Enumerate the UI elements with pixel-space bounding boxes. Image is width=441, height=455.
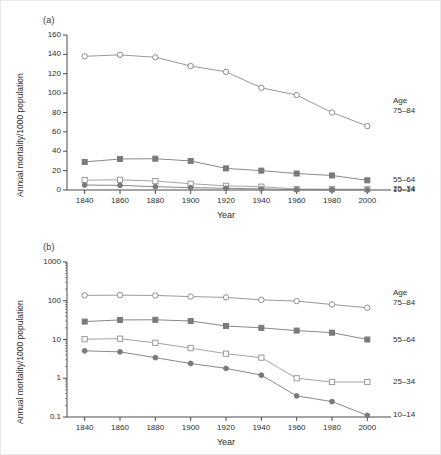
x-tick-label: 1880 <box>135 423 175 432</box>
panel-b-plot <box>1 228 441 455</box>
data-point-55-64 <box>294 171 299 176</box>
x-tick-label: 1940 <box>241 196 281 205</box>
data-point-75-84 <box>188 63 193 68</box>
data-point-25-34 <box>223 351 228 356</box>
y-tick-label: 80 <box>11 108 61 117</box>
y-tick-label: 20 <box>11 166 61 175</box>
data-point-10-14 <box>188 185 193 190</box>
y-tick-label: 100 <box>11 296 61 305</box>
data-point-10-14 <box>259 373 264 378</box>
x-tick-label: 2000 <box>347 196 387 205</box>
x-tick-label: 1880 <box>135 196 175 205</box>
data-point-10-14 <box>365 413 370 418</box>
y-tick-label: 120 <box>11 69 61 78</box>
data-point-10-14 <box>188 361 193 366</box>
legend-title: Age <box>393 96 407 105</box>
data-point-55-64 <box>118 157 123 162</box>
data-point-55-64 <box>259 168 264 173</box>
x-tick-label: 1840 <box>65 423 105 432</box>
y-tick-label: 0 <box>11 185 61 194</box>
data-point-10-14 <box>365 187 370 192</box>
legend-item-75-84: 75–84 <box>393 298 415 307</box>
legend-title: Age <box>393 288 407 297</box>
data-point-55-64 <box>188 158 193 163</box>
data-point-55-64 <box>153 317 158 322</box>
legend-item-75-84: 75–84 <box>393 106 415 115</box>
x-tick-label: 1900 <box>171 196 211 205</box>
x-tick-label: 2000 <box>347 423 387 432</box>
data-point-10-14 <box>82 183 87 188</box>
data-point-75-84 <box>82 54 87 59</box>
y-tick-label: 0.1 <box>11 412 61 421</box>
data-point-25-34 <box>153 178 158 183</box>
legend-item-10-14: 10–14 <box>393 410 415 419</box>
data-point-55-64 <box>224 166 229 171</box>
data-point-25-34 <box>259 355 264 360</box>
y-tick-label: 140 <box>11 49 61 58</box>
data-point-10-14 <box>259 186 264 191</box>
data-point-55-64 <box>365 337 370 342</box>
data-point-75-84 <box>153 55 158 60</box>
data-point-55-64 <box>365 178 370 183</box>
data-point-75-84 <box>117 292 122 297</box>
series-line-75-84 <box>85 55 368 126</box>
legend-item-10-14: 10–14 <box>393 185 415 194</box>
y-tick-label: 100 <box>11 88 61 97</box>
data-point-25-34 <box>117 177 122 182</box>
x-tick-label: 1980 <box>312 196 352 205</box>
data-point-25-34 <box>365 379 370 384</box>
x-tick-label: 1900 <box>171 423 211 432</box>
data-point-55-64 <box>118 317 123 322</box>
y-tick-label: 1 <box>11 373 61 382</box>
x-tick-label: 1840 <box>65 196 105 205</box>
data-point-55-64 <box>82 319 87 324</box>
panel-a-plot <box>1 1 441 228</box>
data-point-10-14 <box>153 184 158 189</box>
data-point-25-34 <box>294 376 299 381</box>
series-line-25-34 <box>85 339 368 382</box>
series-line-55-64 <box>85 320 368 340</box>
data-point-10-14 <box>294 394 299 399</box>
legend-item-25-34: 25–34 <box>393 377 415 386</box>
data-point-55-64 <box>294 328 299 333</box>
data-point-75-84 <box>329 110 334 115</box>
data-point-10-14 <box>118 183 123 188</box>
chart-panel-b: (b) Annual mortality/1000 population Yea… <box>1 228 441 455</box>
data-point-10-14 <box>224 186 229 191</box>
data-point-10-14 <box>153 355 158 360</box>
data-point-75-84 <box>294 92 299 97</box>
data-point-75-84 <box>82 293 87 298</box>
data-point-75-84 <box>153 293 158 298</box>
data-point-75-84 <box>294 298 299 303</box>
x-tick-label: 1920 <box>206 423 246 432</box>
x-tick-label: 1960 <box>277 423 317 432</box>
data-point-10-14 <box>294 187 299 192</box>
data-point-10-14 <box>330 399 335 404</box>
chart-panel-a: (a) Annual mortality/1000 population Yea… <box>1 1 441 228</box>
data-point-25-34 <box>329 379 334 384</box>
data-point-25-34 <box>82 178 87 183</box>
data-point-55-64 <box>153 156 158 161</box>
data-point-75-84 <box>365 123 370 128</box>
y-tick-label: 10 <box>11 335 61 344</box>
data-point-75-84 <box>188 294 193 299</box>
data-point-75-84 <box>259 85 264 90</box>
data-point-25-34 <box>117 336 122 341</box>
data-point-75-84 <box>223 69 228 74</box>
x-tick-label: 1920 <box>206 196 246 205</box>
x-tick-label: 1940 <box>241 423 281 432</box>
y-tick-label: 160 <box>11 30 61 39</box>
data-point-55-64 <box>188 319 193 324</box>
legend-item-55-64: 55–64 <box>393 335 415 344</box>
series-line-10-14 <box>85 351 368 416</box>
data-point-75-84 <box>223 295 228 300</box>
x-tick-label: 1980 <box>312 423 352 432</box>
data-point-10-14 <box>224 366 229 371</box>
data-point-55-64 <box>224 324 229 329</box>
legend-item-55-64: 55–64 <box>393 175 415 184</box>
data-point-10-14 <box>82 348 87 353</box>
y-tick-label: 60 <box>11 127 61 136</box>
x-tick-label: 1860 <box>100 196 140 205</box>
data-point-25-34 <box>153 340 158 345</box>
data-point-55-64 <box>330 330 335 335</box>
